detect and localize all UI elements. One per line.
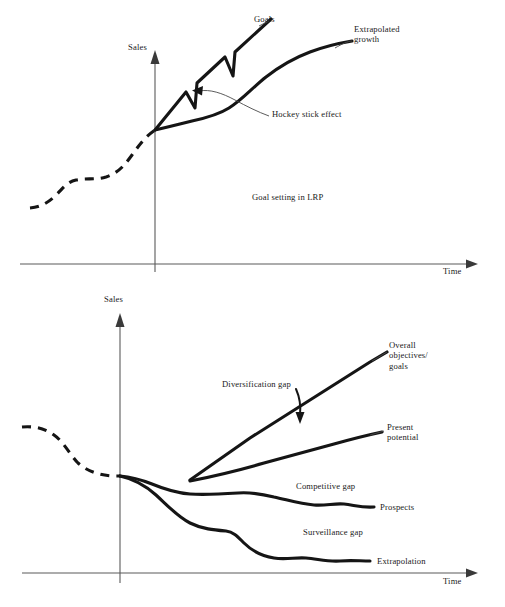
figure-root: Sales Time Goals Extrapolated growth Hoc… xyxy=(0,0,505,607)
chart2-present-potential-label: Present potential xyxy=(387,422,418,443)
chart1-x-axis-arrowhead xyxy=(466,260,478,269)
chart2-overall-objectives-leader-line xyxy=(372,352,387,361)
chart2-x-axis-label: Time xyxy=(443,576,461,586)
chart2-competitive-gap-label: Competitive gap xyxy=(296,481,355,491)
chart2-extrapolation-label: Extrapolation xyxy=(377,556,426,566)
chart1-goals-line xyxy=(155,19,271,130)
chart-goal-setting-lrp xyxy=(20,19,478,272)
chart2-overall-objectives-label: Overall objectives/ goals xyxy=(389,340,428,371)
chart1-x-axis-label: Time xyxy=(443,266,461,276)
chart2-diversification-gap-arrow xyxy=(296,389,300,415)
chart2-diversification-gap-arrowhead xyxy=(296,412,305,424)
chart2-overall-objectives-line xyxy=(190,352,387,480)
chart1-y-axis-arrowhead xyxy=(151,50,160,64)
chart2-surveillance-gap-label: Surveillance gap xyxy=(303,527,363,537)
chart1-goals-label: Goals xyxy=(254,14,275,24)
chart2-historical-dashed-curve xyxy=(22,427,120,476)
chart1-hockey-stick-effect-label: Hockey stick effect xyxy=(272,109,342,119)
figure-canvas xyxy=(0,0,505,607)
chart2-prospects-label: Prospects xyxy=(380,502,414,512)
chart2-diversification-gap-label: Diversification gap xyxy=(222,379,291,389)
chart1-caption: Goal setting in LRP xyxy=(252,192,323,202)
chart2-y-axis-arrowhead xyxy=(116,313,125,327)
chart1-extrapolated-growth-label: Extrapolated growth xyxy=(354,24,400,45)
chart2-x-axis-arrowhead xyxy=(466,569,478,578)
chart2-present-potential-line xyxy=(190,432,382,481)
chart2-y-axis-label: Sales xyxy=(104,294,123,304)
chart1-historical-dashed-curve xyxy=(30,130,155,208)
chart1-y-axis-label: Sales xyxy=(128,42,147,52)
